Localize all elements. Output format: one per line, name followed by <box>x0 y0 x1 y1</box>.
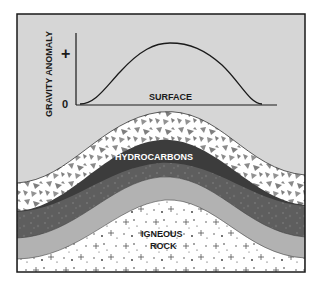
igneous-label-line2: ROCK <box>150 241 177 251</box>
gravity-anomaly-diagram: GRAVITY ANOMALY + 0 SURFACE HYDROCARBONS… <box>0 0 319 283</box>
hydrocarbons-label: HYDROCARBONS <box>115 152 193 162</box>
y-axis-label: GRAVITY ANOMALY <box>44 31 54 117</box>
y-tick-plus: + <box>61 45 70 62</box>
igneous-label-line1: IGNEOUS <box>141 229 183 239</box>
y-tick-zero: 0 <box>62 98 68 110</box>
surface-label: SURFACE <box>149 92 192 102</box>
